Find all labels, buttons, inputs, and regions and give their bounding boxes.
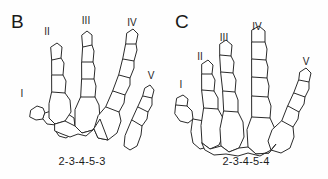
figure-container: B	[0, 0, 328, 179]
phalangeal-formula-c: 2-3-4-5-4	[164, 155, 328, 167]
digit-label-iv-c: IV	[252, 22, 261, 32]
panel-c: C	[164, 0, 328, 179]
digit-v-bones-b	[124, 85, 154, 150]
digit-label-v-b: V	[148, 71, 155, 81]
hand-skeleton-b	[0, 0, 164, 179]
digit-v-bones-c	[268, 68, 311, 153]
digit-label-iv-b: IV	[127, 18, 136, 28]
hand-skeleton-c	[164, 0, 328, 179]
digit-label-iii-c: III	[220, 33, 228, 43]
digit-label-i-b: I	[21, 89, 24, 99]
digit-label-v-c: V	[303, 57, 310, 67]
digit-iii-bones-c	[220, 40, 244, 152]
digit-label-ii-b: II	[44, 27, 50, 37]
digit-label-i-c: I	[180, 80, 183, 90]
digit-label-iii-b: III	[82, 16, 90, 26]
digit-ii-bones-b	[49, 43, 71, 124]
digit-iii-bones-b	[75, 31, 100, 133]
digit-label-ii-c: II	[197, 52, 203, 62]
panel-b: B	[0, 0, 164, 179]
phalangeal-formula-b: 2-3-4-5-3	[0, 155, 164, 167]
